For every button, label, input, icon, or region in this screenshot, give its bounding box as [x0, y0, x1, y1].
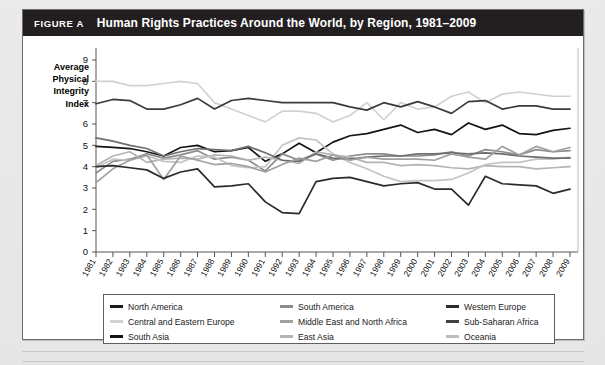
x-axis-tick-label: 1988 [198, 257, 216, 278]
legend-swatch-icon [110, 320, 123, 323]
page-rule-bottom [22, 361, 584, 362]
x-axis-tick-label: 1996 [334, 257, 352, 278]
figure-header: FIGURE A Human Rights Practices Around t… [23, 10, 583, 36]
legend-item-label: North America [128, 302, 182, 312]
legend-item: Sub-Saharan Africa [446, 315, 562, 328]
x-axis-tick-label: 1986 [164, 257, 182, 278]
y-axis-tick-label: 3 [83, 182, 88, 193]
chart-area: Average Physical Integrity Index 0123456… [23, 36, 583, 341]
y-axis-tick-label: 9 [83, 54, 88, 65]
legend-item: North America [110, 300, 280, 313]
series-line [96, 166, 570, 214]
x-axis-tick-label: 1984 [131, 257, 149, 278]
x-axis-tick-label: 2007 [520, 257, 538, 278]
legend-item-label: Sub-Saharan Africa [464, 317, 539, 327]
figure-container: FIGURE A Human Rights Practices Around t… [22, 9, 584, 340]
legend-swatch-icon [280, 305, 293, 308]
y-axis-tick-label: 2 [83, 204, 88, 215]
x-axis-tick-label: 1993 [283, 257, 301, 278]
x-axis-tick-label: 1983 [114, 257, 132, 278]
legend-item: East Asia [280, 330, 446, 343]
x-axis-tick-label: 1982 [97, 257, 115, 278]
legend-swatch-icon [446, 305, 459, 308]
legend-swatch-icon [110, 305, 123, 308]
legend-item-label: South America [298, 302, 354, 312]
x-axis-tick-label: 1999 [384, 257, 402, 278]
figure-label: FIGURE A [34, 18, 84, 29]
x-axis-tick-label: 2000 [401, 257, 419, 278]
x-axis-tick-label: 2005 [486, 257, 504, 278]
legend-item-label: Oceania [464, 332, 496, 342]
y-axis-tick-label: 8 [83, 76, 88, 87]
x-axis-tick-label: 1985 [147, 257, 165, 278]
y-axis-tick-label: 1 [83, 225, 88, 236]
x-axis-tick-label: 1989 [215, 257, 233, 278]
x-axis-tick-label: 1992 [266, 257, 284, 278]
y-axis-tick-label: 6 [83, 118, 88, 129]
x-axis-tick-label: 2001 [418, 257, 436, 278]
y-axis-tick-label: 0 [83, 246, 88, 257]
x-axis-tick-label: 1981 [80, 257, 98, 278]
legend-item: Western Europe [446, 300, 562, 313]
x-axis-tick-label: 1987 [181, 257, 199, 278]
y-axis-tick-label: 4 [83, 161, 88, 172]
legend-item-label: Central and Eastern Europe [128, 317, 235, 327]
series-line [96, 98, 570, 113]
legend-item: Central and Eastern Europe [110, 315, 280, 328]
legend-swatch-icon [110, 335, 123, 338]
figure-title: Human Rights Practices Around the World,… [97, 16, 477, 30]
x-axis-tick-label: 2003 [452, 257, 470, 278]
x-axis-tick-label: 2004 [469, 257, 487, 278]
legend-swatch-icon [280, 320, 293, 323]
legend-item-label: Middle East and North Africa [298, 317, 407, 327]
legend-item-label: South Asia [128, 332, 169, 342]
legend-item: South America [280, 300, 446, 313]
y-axis-tick-label: 7 [83, 97, 88, 108]
x-axis-tick-label: 1991 [249, 257, 267, 278]
y-axis-tick-label: 5 [83, 140, 88, 151]
page-rule-top [22, 351, 584, 352]
legend-item: Oceania [446, 330, 562, 343]
legend-swatch-icon [280, 335, 293, 338]
x-axis-tick-label: 2006 [503, 257, 521, 278]
x-axis-tick-label: 1994 [300, 257, 318, 278]
legend-item: Middle East and North Africa [280, 315, 446, 328]
x-axis-tick-label: 1995 [317, 257, 335, 278]
x-axis-tick-label: 1997 [351, 257, 369, 278]
x-axis-tick-label: 2009 [554, 257, 572, 278]
legend-item: South Asia [110, 330, 280, 343]
chart-legend: North AmericaSouth AmericaWestern Europe… [103, 294, 555, 344]
x-axis-tick-label: 1990 [232, 257, 250, 278]
legend-swatch-icon [446, 335, 459, 338]
legend-swatch-icon [446, 320, 459, 323]
x-axis-tick-label: 2002 [435, 257, 453, 278]
series-line [96, 81, 570, 122]
x-axis-tick-label: 2008 [537, 257, 555, 278]
legend-item-label: Western Europe [464, 302, 526, 312]
legend-item-label: East Asia [298, 332, 334, 342]
x-axis-tick-label: 1998 [368, 257, 386, 278]
legend-grid: North AmericaSouth AmericaWestern Europe… [104, 295, 554, 343]
